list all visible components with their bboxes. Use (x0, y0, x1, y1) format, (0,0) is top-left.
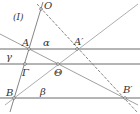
line-B-Theta-A' (5, 4, 138, 105)
point-Theta (57, 63, 60, 66)
figure-label: (I) (13, 12, 24, 22)
label-Theta: Θ (54, 67, 62, 78)
point-B-prime (124, 97, 127, 100)
label-Gamma: Γ (21, 67, 30, 78)
point-A (28, 48, 31, 51)
label-beta: β (39, 86, 46, 97)
label-B-prime: B′ (122, 84, 133, 95)
geometry-diagram: (I) O A A′ α γ Γ Θ B β B′ (0, 0, 140, 114)
label-A-prime: A′ (73, 36, 84, 47)
line-A-Theta-B' (0, 34, 138, 105)
label-A: A (21, 37, 29, 48)
label-gamma: γ (6, 51, 12, 62)
point-O (40, 8, 43, 11)
line-OA'B'-dashed (37, 4, 137, 112)
point-A-prime (76, 48, 79, 51)
label-alpha: α (43, 37, 50, 48)
label-O: O (44, 0, 52, 11)
label-B: B (5, 87, 13, 98)
point-Gamma (24, 63, 27, 66)
